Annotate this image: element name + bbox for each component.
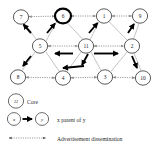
node-1[interactable]: 1 <box>96 9 111 23</box>
node-7-label: 7 <box>20 14 23 20</box>
node-6-core[interactable]: 6 <box>55 9 71 24</box>
ad-edge-4-3 <box>71 77 97 78</box>
node-6-label: 6 <box>62 13 65 19</box>
node-7[interactable]: 7 <box>13 10 28 24</box>
tree-edge-9-2 <box>134 24 140 40</box>
node-4[interactable]: 4 <box>55 71 70 85</box>
node-10-label: 10 <box>140 75 146 81</box>
node-5-label: 5 <box>39 43 42 49</box>
legend-item-advertisement: Advertisement dissemination <box>9 136 123 142</box>
node-8[interactable]: 8 <box>10 70 25 84</box>
node-layer: 7 6 1 9 5 11 2 <box>10 9 150 86</box>
legend-item-parent: x y x parent of y <box>7 113 85 126</box>
parent-arrow-5-7 <box>24 25 32 34</box>
node-2-label: 2 <box>131 43 134 49</box>
legend: 11 Core x y x parent of y Advertisement … <box>7 94 122 142</box>
tree-edge-5-4 <box>46 52 59 71</box>
node-3[interactable]: 3 <box>97 70 112 84</box>
parent-arrow-5-8 <box>23 56 31 66</box>
legend-parent-text: x parent of y <box>57 117 86 123</box>
legend-core-node-label: 11 <box>14 99 19 104</box>
tree-edge-11-4 <box>67 52 81 72</box>
tree-edge-1-2 <box>109 22 127 41</box>
node-8-label: 8 <box>17 74 20 80</box>
tree-edge-5-8 <box>22 52 35 71</box>
node-1-label: 1 <box>103 13 106 19</box>
ad-edge-8-4 <box>26 77 55 78</box>
node-11-label: 11 <box>83 43 88 49</box>
legend-core-text: Core <box>27 99 38 105</box>
node-2[interactable]: 2 <box>124 39 139 53</box>
network-diagram-svg: 7 6 1 9 5 11 2 <box>0 0 159 150</box>
node-11[interactable]: 11 <box>78 39 93 53</box>
node-9-label: 9 <box>139 13 142 19</box>
legend-ad-text: Advertisement dissemination <box>57 136 123 142</box>
node-9[interactable]: 9 <box>132 9 147 23</box>
parent-arrow-11-3 <box>63 66 84 68</box>
tree-edge-11-3 <box>91 52 101 71</box>
node-3-label: 3 <box>104 74 107 80</box>
parent-arrow-2-9 <box>128 24 134 33</box>
tree-edge-2-3 <box>111 52 127 72</box>
tree-edge-6-11 <box>67 23 83 40</box>
node-10[interactable]: 10 <box>135 71 150 85</box>
node-5[interactable]: 5 <box>32 39 47 53</box>
legend-item-core: 11 Core <box>8 94 38 108</box>
ad-edge-3-10 <box>113 77 135 78</box>
diagram-root: 7 6 1 9 5 11 2 <box>0 0 159 150</box>
parent-arrow-11-4 <box>82 54 88 65</box>
node-4-label: 4 <box>62 75 65 81</box>
